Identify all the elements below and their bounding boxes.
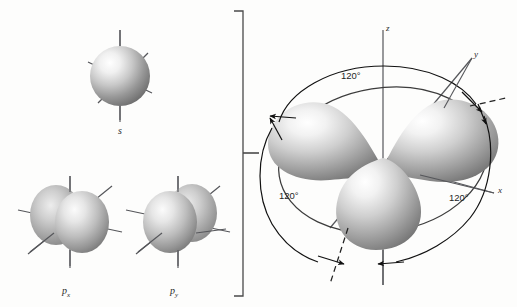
label-px-orbital: px: [62, 286, 70, 299]
label-axis-y: y: [474, 50, 478, 59]
label-angle-lower-left: 120°: [279, 191, 299, 201]
py-lobe-front: [143, 191, 197, 253]
label-py-orbital: py: [170, 286, 178, 299]
label-angle-lower-right: 120°: [449, 193, 469, 203]
label-axis-x: x: [498, 186, 502, 195]
px-orbital-group: [18, 176, 122, 268]
label-axis-z: z: [386, 24, 390, 33]
orbital-hybridization-figure: s px py z y x 120° 120° 120°: [0, 0, 517, 307]
combination-bracket: [234, 11, 259, 296]
dashed-line-upper-right: [470, 98, 506, 106]
arc-right-arrowhead-bottom: [378, 262, 404, 264]
figure-graphics: [0, 0, 517, 307]
s-orbital-sphere: [90, 46, 150, 106]
s-orbital-group: [88, 30, 152, 122]
py-orbital-group: [126, 176, 230, 268]
label-s-orbital: s: [118, 126, 122, 136]
arc-left-arrowhead-bottom: [318, 256, 344, 264]
label-angle-top: 120°: [341, 71, 361, 81]
px-lobe-front: [55, 191, 109, 253]
